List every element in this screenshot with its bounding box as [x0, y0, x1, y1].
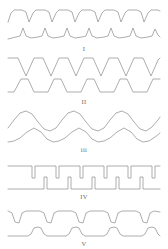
panel-1-upper-trace	[8, 10, 160, 22]
panel-3-lower-trace	[8, 128, 160, 142]
panel-1-lower-trace	[8, 28, 160, 39]
panel-label-v: V	[0, 240, 168, 247]
panel-4-upper-trace	[8, 166, 160, 178]
panel-5-lower-trace	[8, 227, 160, 236]
panel-label-i: I	[0, 45, 168, 52]
panel-label-ii: II	[0, 98, 168, 105]
waveform-figure-plate: I II iii IV V	[0, 0, 168, 249]
panel-label-iii: iii	[0, 146, 168, 153]
panel-2-lower-trace	[8, 79, 160, 92]
panel-5-upper-trace	[8, 211, 160, 223]
panel-4-lower-trace	[8, 177, 160, 189]
panel-label-iv: IV	[0, 193, 168, 200]
panel-3-upper-trace	[8, 111, 160, 131]
panel-2-upper-trace	[8, 58, 160, 76]
waveform-traces-canvas	[0, 0, 168, 249]
